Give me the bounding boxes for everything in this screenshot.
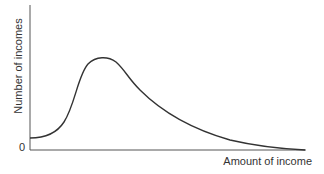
chart-canvas bbox=[0, 0, 324, 174]
income-distribution-curve bbox=[30, 58, 305, 150]
x-axis-label: Amount of income bbox=[223, 155, 312, 167]
y-axis-label: Number of incomes bbox=[12, 16, 24, 116]
y-axis-zero-tick: 0 bbox=[19, 141, 25, 153]
